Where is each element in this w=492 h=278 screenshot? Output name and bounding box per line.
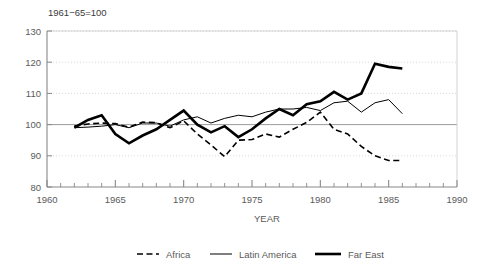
y-tick-label: 80 <box>30 182 41 193</box>
y-tick-label: 130 <box>25 26 41 37</box>
chart-legend: AfricaLatin AmericaFar East <box>137 249 384 260</box>
legend-label-far-east: Far East <box>348 249 384 260</box>
x-axis-label: YEAR <box>254 213 280 224</box>
line-chart: 8090100110120130 19601965197019751980198… <box>0 0 492 278</box>
x-tick-label: 1985 <box>378 194 399 205</box>
legend-label-latin-america: Latin America <box>239 249 297 260</box>
x-tick-label: 1960 <box>36 194 57 205</box>
x-tick-label: 1965 <box>105 194 126 205</box>
y-tick-label: 90 <box>30 150 41 161</box>
chart-container: 8090100110120130 19601965197019751980198… <box>0 0 492 278</box>
x-tick-label: 1990 <box>446 194 467 205</box>
y-tick-label: 110 <box>26 88 41 99</box>
x-tick-label: 1975 <box>241 194 262 205</box>
y-tick-label: 120 <box>25 57 41 68</box>
y-tick-label: 100 <box>25 119 41 130</box>
x-tick-label: 1970 <box>173 194 194 205</box>
legend-label-africa: Africa <box>166 249 191 260</box>
x-tick-label: 1980 <box>310 194 331 205</box>
chart-background <box>0 0 492 278</box>
chart-title: 1961−65=100 <box>48 7 107 18</box>
